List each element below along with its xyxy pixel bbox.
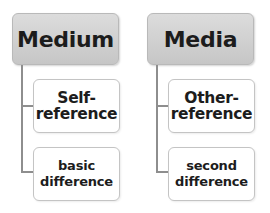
- node-other-reference: Other- reference: [168, 79, 255, 133]
- header-medium-label: Medium: [17, 27, 114, 52]
- node-basic-difference-line2: difference: [40, 174, 113, 190]
- connector-vertical-media: [156, 65, 158, 173]
- connector-vertical-medium: [21, 65, 23, 173]
- node-second-difference-line2: difference: [175, 174, 248, 190]
- node-self-reference: Self- reference: [33, 79, 120, 133]
- connector-branch-basic-difference: [21, 171, 33, 173]
- connector-branch-second-difference: [156, 171, 168, 173]
- connector-branch-self-reference: [21, 105, 33, 107]
- column-media: Media Other- reference second difference: [135, 0, 270, 213]
- node-second-difference-line1: second: [175, 158, 248, 174]
- header-media-label: Media: [164, 27, 237, 52]
- node-other-reference-line2: reference: [171, 106, 253, 122]
- node-basic-difference-line1: basic: [40, 158, 113, 174]
- header-media: Media: [147, 13, 254, 65]
- column-medium: Medium Self- reference basic difference: [0, 0, 135, 213]
- node-basic-difference: basic difference: [33, 147, 120, 201]
- connector-branch-other-reference: [156, 105, 168, 107]
- node-second-difference: second difference: [168, 147, 255, 201]
- header-medium: Medium: [12, 13, 119, 65]
- node-self-reference-line1: Self-: [36, 90, 118, 106]
- node-other-reference-line1: Other-: [171, 90, 253, 106]
- node-self-reference-line2: reference: [36, 106, 118, 122]
